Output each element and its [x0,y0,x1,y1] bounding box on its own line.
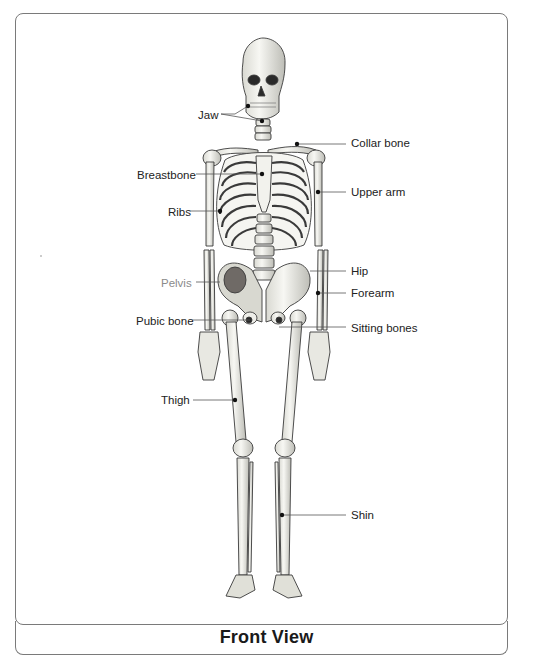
label-hip: Hip [351,264,368,278]
skeleton-illustration [0,0,533,665]
label-breastbone: Breastbone [137,168,196,182]
label-thigh: Thigh [161,393,190,407]
label-pelvis: Pelvis [161,276,192,290]
right-leg [273,310,306,598]
label-jaw: Jaw [198,108,218,122]
label-ribs: Ribs [168,205,191,219]
left-arm [198,162,220,380]
left-leg [222,310,255,598]
label-sitting-bones: Sitting bones [351,321,418,335]
label-collar-bone: Collar bone [351,136,410,150]
label-shin: Shin [351,508,374,522]
label-forearm: Forearm [351,286,394,300]
label-upper-arm: Upper arm [351,185,405,199]
label-pubic-bone: Pubic bone [136,314,194,328]
